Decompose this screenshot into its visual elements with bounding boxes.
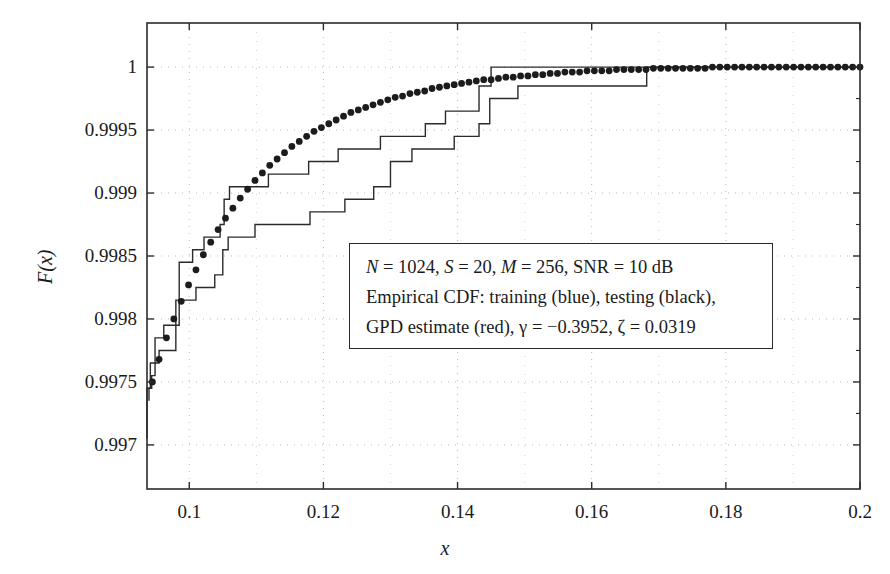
annotation-box: N = 1024, S = 20, M = 256, SNR = 10 dB E… <box>349 243 773 349</box>
param-N-symbol: N <box>366 257 378 277</box>
annotation-line-3: GPD estimate (red), γ = −0.3952, ζ = 0.0… <box>366 313 756 343</box>
param-S-symbol: S <box>444 257 453 277</box>
annotation-line-1: N = 1024, S = 20, M = 256, SNR = 10 dB <box>366 253 756 283</box>
y-tick-label: 1 <box>128 57 138 76</box>
param-S-value: = 20, <box>454 257 501 277</box>
x-axis-title: x <box>0 537 890 560</box>
x-axis-title-text: x <box>441 537 450 559</box>
x-tick-label: 0.18 <box>686 502 766 521</box>
y-axis-title-text: F(x) <box>34 250 56 284</box>
y-tick-label: 0.997 <box>94 435 137 454</box>
param-M-symbol: M <box>501 257 516 277</box>
x-tick-label: 0.14 <box>418 502 498 521</box>
y-tick-label: 0.998 <box>94 309 137 328</box>
x-tick-label: 0.16 <box>552 502 632 521</box>
x-tick-label: 0.2 <box>820 502 890 521</box>
param-N-value: = 1024, <box>378 257 444 277</box>
x-tick-label: 0.1 <box>149 502 229 521</box>
y-tick-label: 0.999 <box>94 183 137 202</box>
param-M-value: = 256, SNR = 10 dB <box>516 257 673 277</box>
y-tick-label: 0.9975 <box>85 372 137 391</box>
y-axis-title: F(x) <box>34 250 57 284</box>
y-tick-label: 0.9985 <box>85 246 137 265</box>
annotation-line-2: Empirical CDF: training (blue), testing … <box>366 283 756 313</box>
x-tick-label: 0.12 <box>283 502 363 521</box>
y-tick-label: 0.9995 <box>85 120 137 139</box>
figure-root: F(x) x 0.9970.99750.9980.99850.9990.9995… <box>0 0 890 574</box>
